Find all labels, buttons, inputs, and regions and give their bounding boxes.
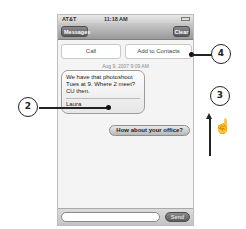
phone-screen: AT&T 11:18 AM Messages Clear Call Add to… (57, 14, 194, 226)
callout-2: 2 (18, 97, 38, 117)
carrier-label: AT&T (62, 16, 76, 22)
add-to-contacts-button[interactable]: Add to Contacts (125, 44, 192, 59)
pointing-hand-icon: ☝ (214, 118, 231, 134)
callout-3: 3 (210, 86, 230, 106)
contact-actions: Call Add to Contacts (61, 44, 192, 59)
callout-2-anchor (106, 105, 111, 110)
callout-4: 4 (211, 44, 231, 64)
call-button[interactable]: Call (61, 44, 121, 59)
message-timestamp: Aug 9, 2007 9:09 AM (58, 63, 193, 69)
nav-bar: Messages Clear (58, 23, 193, 40)
send-button[interactable]: Send (165, 212, 190, 222)
composer-bar: Send (58, 208, 193, 225)
outgoing-message-bubble: How about your office? (109, 125, 190, 136)
battery-icon (181, 17, 190, 21)
arrow-up-icon (209, 118, 211, 156)
message-input[interactable] (61, 212, 160, 222)
status-bar: AT&T 11:18 AM (58, 15, 193, 23)
messages-back-button[interactable]: Messages (61, 26, 88, 37)
callout-2-leader (39, 107, 109, 109)
clear-button[interactable]: Clear (173, 26, 190, 37)
clock: 11:18 AM (104, 16, 128, 22)
callout-4-leader (192, 54, 212, 56)
message-text: We have that photoshoot Tues at 9. Where… (66, 74, 140, 95)
